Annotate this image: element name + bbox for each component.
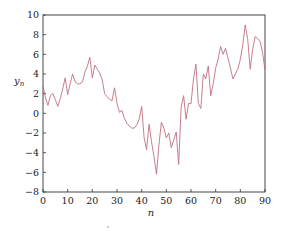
y-tick-label: 2 <box>33 88 39 99</box>
x-tick-label: 60 <box>185 195 197 206</box>
y-tick-label: −6 <box>25 167 39 178</box>
y-tick-label: −2 <box>25 127 39 138</box>
x-tick-label: 30 <box>111 195 123 206</box>
y-tick-label: 0 <box>33 108 39 119</box>
stray-dot <box>107 226 109 228</box>
x-tick-label: 50 <box>160 195 172 206</box>
y-tick-label: 4 <box>33 68 39 79</box>
x-tick-label: 40 <box>136 195 148 206</box>
plot-frame <box>43 15 265 192</box>
line-chart: −8−6−4−20246810 0102030405060708090 yn n <box>0 0 284 231</box>
data-line <box>43 25 265 174</box>
x-tick-label: 20 <box>86 195 98 206</box>
x-tick-label: 80 <box>234 195 246 206</box>
x-tick-label: 90 <box>259 195 271 206</box>
y-tick-label: −8 <box>25 186 39 197</box>
plot-border <box>43 15 265 192</box>
x-tick-label: 0 <box>40 195 46 206</box>
x-axis-label: n <box>148 207 154 218</box>
y-tick-label: −4 <box>25 147 39 158</box>
y-tick-label: 6 <box>33 49 39 60</box>
y-tick-label: 10 <box>27 9 39 20</box>
y-axis-label: yn <box>13 75 25 88</box>
x-tick-label: 70 <box>210 195 222 206</box>
x-tick-label: 10 <box>62 195 74 206</box>
y-tick-label: 8 <box>33 29 39 40</box>
